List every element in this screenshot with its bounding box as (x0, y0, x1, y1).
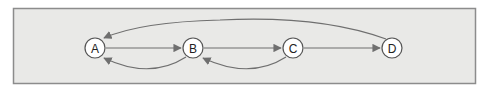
node-c: C (283, 38, 303, 58)
node-a: A (85, 38, 105, 58)
node-c-label: C (289, 42, 298, 56)
state-diagram: A B C D (0, 0, 488, 90)
node-b: B (183, 38, 203, 58)
node-b-label: B (189, 42, 197, 56)
node-d-label: D (388, 42, 397, 56)
node-a-label: A (91, 42, 99, 56)
node-d: D (382, 38, 402, 58)
